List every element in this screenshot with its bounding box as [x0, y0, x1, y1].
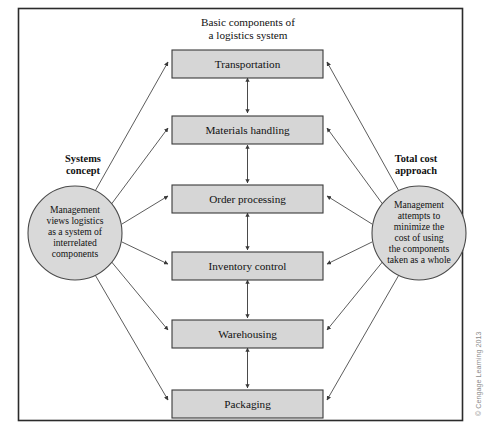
left-body-line2: views logistics [47, 215, 104, 226]
right-body-line1: Management [394, 199, 444, 210]
left-body-line3: as a system of [48, 226, 103, 237]
right-caption-line1: Total cost [395, 153, 438, 164]
right-body-line4: cost of using [394, 232, 443, 243]
link-left-to-warehousing [110, 260, 168, 330]
right-caption-line2: approach [395, 165, 437, 176]
link-right-to-materials-handling [327, 128, 384, 206]
component-box-inventory-control[interactable]: Inventory control [172, 252, 323, 280]
component-label-inventory-control: Inventory control [209, 260, 287, 272]
right-body-line2: attempts to [398, 210, 441, 221]
left-caption-line2: concept [66, 165, 101, 176]
component-box-order-processing[interactable]: Order processing [172, 185, 323, 213]
left-body-line1: Management [50, 204, 100, 215]
right-body-line3: minimize the [394, 221, 444, 232]
right-body-line5: the components [389, 243, 450, 254]
component-label-order-processing: Order processing [209, 193, 286, 205]
logistics-system-diagram: Basic components of a logistics system [0, 0, 493, 441]
left-body-line4: interrelated [53, 237, 97, 248]
component-box-packaging[interactable]: Packaging [172, 390, 323, 418]
component-label-packaging: Packaging [224, 398, 271, 410]
component-box-materials-handling[interactable]: Materials handling [172, 116, 323, 144]
figure-root: Basic components of a logistics system [0, 0, 493, 441]
component-box-transportation[interactable]: Transportation [172, 50, 323, 78]
total-cost-approach-circle[interactable]: Management attempts to minimize the cost… [372, 186, 466, 280]
component-box-warehousing[interactable]: Warehousing [172, 320, 323, 348]
link-right-to-transportation [327, 62, 400, 193]
link-left-to-packaging [94, 273, 168, 400]
left-caption-line1: Systems [65, 153, 101, 164]
copyright-credit: © Cengage Learning 2013 [474, 332, 483, 416]
figure-title-line2: a logistics system [209, 29, 288, 41]
link-left-to-materials-handling [110, 128, 168, 206]
component-label-materials-handling: Materials handling [205, 124, 290, 136]
link-left-to-inventory-control [122, 242, 168, 264]
component-label-transportation: Transportation [215, 58, 281, 70]
link-left-to-transportation [94, 62, 168, 193]
component-label-warehousing: Warehousing [218, 328, 277, 340]
link-right-to-packaging [327, 273, 400, 400]
link-right-to-warehousing [327, 260, 384, 330]
link-right-to-order-processing [327, 196, 372, 224]
link-right-to-inventory-control [327, 242, 372, 264]
right-body-line6: taken as a whole [387, 254, 451, 265]
left-body-line5: components [52, 248, 99, 259]
systems-concept-circle[interactable]: Management views logistics as a system o… [28, 186, 122, 280]
link-left-to-order-processing [122, 196, 168, 224]
figure-title-line1: Basic components of [201, 16, 295, 28]
